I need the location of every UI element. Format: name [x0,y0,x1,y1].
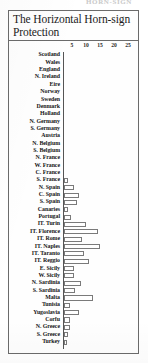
chart-bar [64,185,74,190]
chart-bar [64,193,79,198]
category-label: IT. Naples [9,243,60,250]
category-label: S. Belgium [9,147,60,154]
category-label: Corfu [9,316,60,323]
chart-bar [64,222,86,227]
chart-bar [64,310,79,315]
chart-bar [64,178,68,183]
chart-bar [64,325,70,330]
category-label: N. Germany [9,118,60,125]
category-label: S. Greece [9,331,60,338]
category-label: Sweden [9,96,60,103]
chart-bar [64,317,70,322]
category-label: N. Ireland [9,73,60,80]
chart-bar [64,288,75,293]
x-tick-label: 20 [111,42,117,48]
category-label: N. Belgium [9,140,60,147]
chart-bar [64,303,70,308]
category-label: Portugal [9,213,60,220]
chart-bar [64,215,71,220]
category-label: IT. Florence [9,228,60,235]
category-label: Yugoslavia [9,309,60,316]
chart-row: Turkey [9,339,138,346]
category-label: S. France [9,176,60,183]
chart-bar [64,281,81,286]
x-tick-label: 25 [125,42,131,48]
category-label: Scotland [9,51,60,58]
chart-bar [64,273,74,278]
category-label: N. Sardinia [9,279,60,286]
category-label: Wales [9,59,60,66]
category-label: IT. Taranto [9,250,60,257]
chart-bar [64,295,93,300]
chart-bar [64,251,84,256]
category-label: C. France [9,169,60,176]
figure-frame: The Horizontal Horn-sign Protection 5101… [8,10,139,354]
figure-title: The Horizontal Horn-sign Protection [13,13,137,38]
x-tick-label: 10 [83,42,89,48]
category-label: IT. Reggio [9,257,60,264]
category-label: S. Sardinia [9,287,60,294]
category-label: Tunisia [9,301,60,308]
category-label: IT. Rome [9,235,60,242]
category-label: S. Spain [9,198,60,205]
chart-bar [64,200,77,205]
category-label: N. France [9,154,60,161]
category-label: W. France [9,162,60,169]
category-label: Canaries [9,206,60,213]
category-label: Holland [9,110,60,117]
running-head: HORN-SIGN [78,0,140,5]
category-label: Eire [9,81,60,88]
category-label: Austria [9,132,60,139]
category-label: Malta [9,294,60,301]
x-tick-label: 5 [71,42,74,48]
x-tick-label: 15 [97,42,103,48]
chart-bar [64,340,67,345]
chart-bar [64,259,89,264]
category-label: Norway [9,88,60,95]
chart-bar [64,244,100,249]
category-label: N. Spain [9,184,60,191]
category-label: Turkey [9,338,60,345]
category-label: Denmark [9,103,60,110]
chart-bar [64,237,82,242]
chart-bar [64,207,68,212]
x-axis-tick-labels: 51015202530 [9,42,138,51]
category-label: E. Sicily [9,265,60,272]
category-label: C. Spain [9,191,60,198]
category-label: IT. Turin [9,220,60,227]
category-label: S. Germany [9,125,60,132]
category-label: W. Sicily [9,272,60,279]
chart-bar [64,266,74,271]
plot-area: ScotlandWalesEnglandN. IrelandEireNorway… [9,52,138,353]
category-label: England [9,66,60,73]
chart-bar [64,229,98,234]
chart-bar [64,332,68,337]
title-divider [9,40,138,41]
category-label: N. Greece [9,323,60,330]
